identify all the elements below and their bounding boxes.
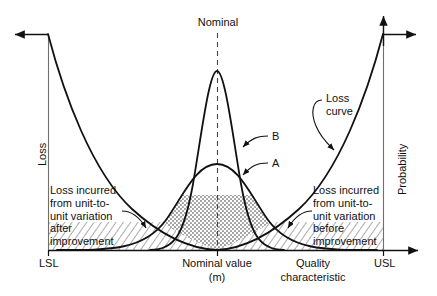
x-axis-label-line2: characteristic <box>272 271 354 284</box>
x-center-label-line2: (m) <box>197 271 237 284</box>
x-tick-label-usl: USL <box>374 257 395 270</box>
loss-curve-label-line2: curve <box>326 105 353 118</box>
y-axis-right-label: Probability <box>396 144 409 195</box>
y-axis-left-label: Loss <box>36 143 49 166</box>
x-tick-label-lsl: LSL <box>39 257 59 270</box>
annotation-left: Loss incurred from unit-to- unit variati… <box>50 184 116 248</box>
nominal-label: Nominal <box>185 16 251 29</box>
curve-label-b: B <box>272 130 279 143</box>
curve-label-a: A <box>272 157 279 170</box>
leader-line-a <box>243 163 268 175</box>
diagram-canvas <box>0 0 437 296</box>
x-axis-label-line1: Quality <box>272 257 354 270</box>
leader-line-b <box>243 136 268 147</box>
taguchi-loss-function-figure: Nominal Loss Probability LSL USL Nominal… <box>0 0 437 296</box>
x-center-label-line1: Nominal value <box>177 257 257 270</box>
loss-curve-label-line1: Loss <box>326 92 349 105</box>
annotation-right: Loss incurred from unit-to- unit variati… <box>313 184 379 248</box>
